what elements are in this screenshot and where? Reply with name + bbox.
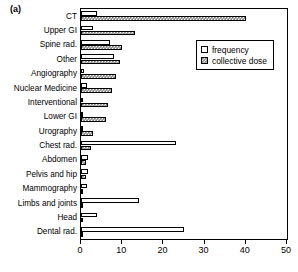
x-tick-label: 20: [150, 245, 174, 256]
bar-collective-dose: [81, 218, 83, 223]
figure-panel-a: (a) CTUpper GISpine rad.OtherAngiography…: [0, 0, 298, 272]
category-label: CT: [0, 12, 77, 21]
category-label: Spine rad.: [0, 40, 77, 49]
x-tick-mark: [162, 240, 163, 244]
category-label: Nuclear Medicine: [0, 84, 77, 93]
category-label: Chest rad.: [0, 141, 77, 150]
bar-collective-dose: [81, 189, 83, 194]
bar-frequency: [81, 227, 184, 232]
legend-swatch-collective-dose-icon: [201, 57, 208, 64]
category-label: Limbs and joints: [0, 199, 77, 208]
x-tick-label: 30: [192, 245, 216, 256]
bar-collective-dose: [81, 117, 106, 122]
x-tick-label: 10: [109, 245, 133, 256]
bar-frequency: [81, 26, 93, 31]
bar-collective-dose: [81, 160, 86, 165]
legend-item-frequency: frequency: [201, 44, 267, 55]
bar-frequency: [81, 69, 84, 74]
bar-frequency: [81, 155, 88, 160]
x-tick-mark: [286, 240, 287, 244]
category-label: Head: [0, 213, 77, 222]
bar-frequency: [81, 184, 87, 189]
category-label: Other: [0, 55, 77, 64]
bar-collective-dose: [81, 146, 91, 151]
bar-frequency: [81, 198, 139, 203]
bar-frequency: [81, 54, 114, 59]
legend-label-collective-dose: collective dose: [212, 56, 267, 66]
x-tick-label: 50: [274, 245, 298, 256]
category-label: Urography: [0, 127, 77, 136]
bar-frequency: [81, 169, 88, 174]
x-tick-label: 0: [68, 245, 92, 256]
legend: frequency collective dose: [196, 40, 274, 70]
category-label: Interventional: [0, 98, 77, 107]
bar-frequency: [81, 126, 83, 131]
bar-frequency: [81, 141, 176, 146]
bar-collective-dose: [81, 232, 83, 237]
legend-label-frequency: frequency: [212, 45, 249, 55]
bar-collective-dose: [81, 60, 120, 65]
bar-frequency: [81, 112, 83, 117]
category-axis-labels: CTUpper GISpine rad.OtherAngiographyNucl…: [0, 8, 77, 240]
bar-collective-dose: [81, 31, 135, 36]
x-axis: 01020304050: [80, 240, 288, 270]
bar-collective-dose: [81, 45, 122, 50]
bar-collective-dose: [81, 16, 246, 21]
category-label: Abdomen: [0, 155, 77, 164]
category-label: Pelvis and hip: [0, 170, 77, 179]
x-tick-mark: [245, 240, 246, 244]
x-tick-mark: [204, 240, 205, 244]
x-tick-label: 40: [233, 245, 257, 256]
bar-collective-dose: [81, 103, 108, 108]
bar-collective-dose: [81, 203, 83, 208]
bar-collective-dose: [81, 88, 112, 93]
bar-collective-dose: [81, 131, 93, 136]
x-tick-mark: [80, 240, 81, 244]
bar-frequency: [81, 40, 110, 45]
x-tick-mark: [121, 240, 122, 244]
bar-collective-dose: [81, 175, 86, 180]
category-label: Lower GI: [0, 112, 77, 121]
category-label: Angiography: [0, 69, 77, 78]
bar-frequency: [81, 98, 83, 103]
legend-swatch-frequency-icon: [201, 46, 208, 53]
legend-item-collective-dose: collective dose: [201, 55, 267, 66]
category-label: Upper GI: [0, 26, 77, 35]
bar-frequency: [81, 83, 87, 88]
bar-frequency: [81, 11, 97, 16]
bar-frequency: [81, 213, 97, 218]
category-label: Mammography: [0, 184, 77, 193]
category-label: Dental rad.: [0, 227, 77, 236]
bar-collective-dose: [81, 74, 116, 79]
